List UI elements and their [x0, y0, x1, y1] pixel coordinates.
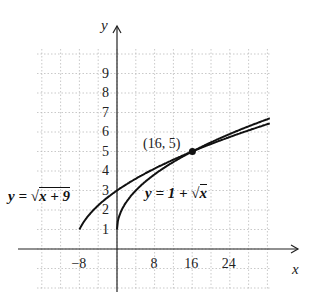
y-axis-label: y [101, 18, 108, 33]
y-tick-label: 4 [102, 164, 109, 178]
y-tick-label: 6 [102, 125, 109, 139]
x-tick-label: 24 [222, 257, 236, 271]
y-tick-label: 5 [102, 145, 109, 159]
point-label: (16, 5) [143, 137, 180, 151]
x-tick-label: 8 [151, 257, 158, 271]
equation-label-2: y = 1 + √x [145, 186, 207, 201]
x-axis-label: x [292, 262, 299, 277]
y-tick-label: 8 [102, 86, 109, 100]
y-tick-label: 9 [102, 67, 109, 81]
eq2-radicand: x [200, 184, 208, 201]
intersection-point [189, 148, 196, 155]
y-tick-label: 1 [102, 223, 109, 237]
eq1-prefix: y = [8, 188, 31, 204]
y-tick-label: 3 [102, 184, 109, 198]
x-tick-label: −8 [71, 257, 86, 271]
curve-1-plus-sqrt-x [117, 118, 270, 229]
x-tick-label: 16 [184, 257, 198, 271]
sqrt-icon: √ [191, 185, 199, 201]
y-tick-label: 2 [102, 203, 109, 217]
sqrt-icon: √ [31, 188, 39, 204]
equation-label-1: y = √x + 9 [8, 189, 70, 204]
axes [18, 26, 298, 292]
eq2-prefix: y = 1 + [145, 185, 191, 201]
y-tick-label: 7 [102, 106, 109, 120]
eq1-radicand: x + 9 [39, 187, 70, 204]
